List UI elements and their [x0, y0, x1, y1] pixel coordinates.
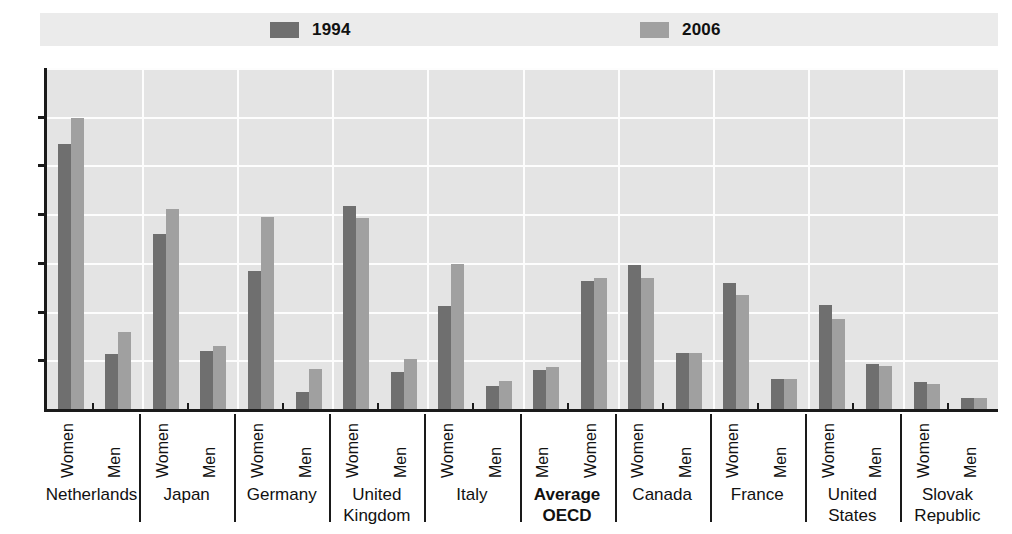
legend-item-1994: 1994 — [270, 13, 351, 46]
bar — [594, 278, 607, 409]
bar — [499, 381, 512, 409]
bar — [391, 372, 404, 409]
x-subgroup-tick — [852, 403, 854, 412]
x-subgroup-tick — [757, 403, 759, 412]
bar-chart: 1994 2006 010203040506070 WomenMenNether… — [0, 0, 1012, 534]
x-group-label: Netherlands — [44, 484, 139, 505]
x-subgroup-tick — [947, 403, 949, 412]
bar — [628, 265, 641, 409]
x-subgroup-label-men: Men — [297, 412, 315, 478]
x-subgroup-label-women: Women — [915, 412, 933, 478]
x-gridline — [427, 68, 429, 409]
x-subgroup-tick — [472, 403, 474, 412]
x-gridline — [523, 68, 525, 409]
bar — [533, 370, 546, 409]
bar — [832, 319, 845, 409]
bar — [248, 271, 261, 409]
bar — [581, 281, 594, 409]
x-group-label: Slovak Republic — [900, 484, 995, 526]
bar — [689, 353, 702, 409]
x-subgroup-label-women: Women — [820, 412, 838, 478]
y-tick-mark — [38, 359, 47, 362]
y-tick-mark — [38, 164, 47, 167]
x-group-label: Japan — [139, 484, 234, 505]
x-gridline — [618, 68, 620, 409]
x-subgroup-tick — [187, 403, 189, 412]
x-group-label: Canada — [615, 484, 710, 505]
x-gridline — [142, 68, 144, 409]
x-axis-labels: WomenMenNetherlandsWomenMenJapanWomenMen… — [44, 412, 995, 534]
bar — [153, 234, 166, 409]
bar — [309, 369, 322, 409]
x-subgroup-label-women: Women — [439, 412, 457, 478]
bar — [438, 306, 451, 409]
x-subgroup-label-men: Men — [487, 412, 505, 478]
x-subgroup-label-men: Men — [201, 412, 219, 478]
legend-swatch-1994 — [270, 22, 299, 38]
bar — [771, 379, 784, 409]
y-tick-mark — [38, 262, 47, 265]
bar — [71, 118, 84, 409]
bar — [879, 366, 892, 409]
x-group-separator — [424, 414, 426, 522]
legend-item-2006: 2006 — [640, 13, 721, 46]
x-gridline — [237, 68, 239, 409]
x-subgroup-label-women: Women — [344, 412, 362, 478]
bar — [736, 295, 749, 409]
x-group-separator — [139, 414, 141, 522]
bar — [213, 346, 226, 409]
x-subgroup-label-men: Men — [677, 412, 695, 478]
bar — [866, 364, 879, 409]
bar — [914, 382, 927, 409]
x-subgroup-label-men: Men — [534, 412, 552, 478]
legend-label-2006: 2006 — [682, 20, 721, 40]
bar — [723, 283, 736, 409]
bar — [118, 332, 131, 409]
y-tick-mark — [38, 116, 47, 119]
x-subgroup-label-women: Women — [582, 412, 600, 478]
x-subgroup-label-women: Women — [629, 412, 647, 478]
x-subgroup-tick — [567, 403, 569, 412]
bar — [676, 353, 689, 410]
bar — [356, 218, 369, 409]
x-subgroup-label-men: Men — [962, 412, 980, 478]
x-subgroup-label-women: Women — [724, 412, 742, 478]
x-gridline — [332, 68, 334, 409]
x-subgroup-label-men: Men — [772, 412, 790, 478]
x-subgroup-label-women: Women — [154, 412, 172, 478]
x-group-separator — [234, 414, 236, 522]
x-subgroup-tick — [662, 403, 664, 412]
bar — [296, 392, 309, 409]
x-subgroup-label-men: Men — [106, 412, 124, 478]
bar — [343, 206, 356, 409]
x-group-label: United Kingdom — [329, 484, 424, 526]
x-group-label: Italy — [424, 484, 519, 505]
x-group-label: Average OECD — [520, 484, 615, 526]
bar — [641, 278, 654, 409]
legend-label-1994: 1994 — [312, 20, 351, 40]
x-subgroup-label-women: Women — [249, 412, 267, 478]
bar — [961, 398, 974, 409]
x-subgroup-tick — [282, 403, 284, 412]
bar — [927, 384, 940, 409]
legend-swatch-2006 — [640, 22, 669, 38]
chart-legend: 1994 2006 — [40, 13, 998, 46]
bar — [261, 217, 274, 409]
bar — [166, 209, 179, 409]
bar — [784, 379, 797, 409]
x-subgroup-tick — [377, 403, 379, 412]
x-group-label: United States — [805, 484, 900, 526]
y-tick-mark — [38, 311, 47, 314]
bar — [58, 144, 71, 409]
x-group-label: Germany — [234, 484, 329, 505]
bar — [546, 367, 559, 409]
x-gridline — [713, 68, 715, 409]
bar — [404, 359, 417, 409]
x-subgroup-label-women: Women — [59, 412, 77, 478]
bar — [486, 386, 499, 409]
bar — [451, 264, 464, 409]
plot-area: 010203040506070 — [44, 68, 998, 412]
x-group-separator — [710, 414, 712, 522]
x-group-separator — [615, 414, 617, 522]
x-group-label: France — [710, 484, 805, 505]
